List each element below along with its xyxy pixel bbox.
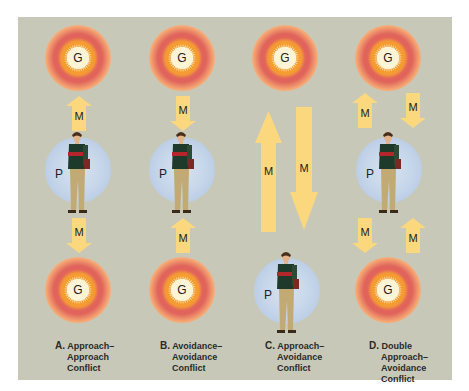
person-figure bbox=[65, 131, 91, 215]
motive-arrow-up-long: M bbox=[255, 111, 282, 232]
person-figure bbox=[376, 131, 402, 215]
motive-arrow-down: M bbox=[170, 96, 196, 131]
motive-arrow-up: M bbox=[66, 96, 92, 131]
person-figure bbox=[274, 251, 300, 335]
goal-label: G bbox=[149, 257, 215, 323]
motive-arrow-up: M bbox=[170, 218, 196, 253]
caption-c: C. Approach– Avoidance Conflict bbox=[265, 340, 324, 374]
motive-arrow-up: M bbox=[400, 218, 426, 253]
motive-arrow-up: M bbox=[352, 93, 378, 128]
goal-label: G bbox=[149, 25, 215, 91]
motive-arrow-down: M bbox=[400, 93, 426, 128]
goal-circle-d-top: G bbox=[355, 25, 421, 91]
goal-label: G bbox=[45, 25, 111, 91]
goal-circle-a-bottom: G bbox=[45, 257, 111, 323]
motive-arrow-down: M bbox=[66, 218, 92, 253]
goal-circle-a-top: G bbox=[45, 25, 111, 91]
caption-a: A. Approach– Approach Conflict bbox=[55, 340, 114, 374]
goal-circle-b-bottom: G bbox=[149, 257, 215, 323]
caption-b: B. Avoidance– Avoidance Conflict bbox=[160, 340, 222, 374]
motive-arrow-down: M bbox=[352, 218, 378, 253]
goal-circle-c-top: G bbox=[252, 25, 318, 91]
person-figure bbox=[169, 131, 195, 215]
caption-d: D. Double Approach– Avoidance Conflict bbox=[369, 340, 428, 385]
goal-circle-d-bottom: G bbox=[355, 257, 421, 323]
goal-label: G bbox=[45, 257, 111, 323]
goal-label: G bbox=[355, 257, 421, 323]
goal-label: G bbox=[252, 25, 318, 91]
goal-circle-b-top: G bbox=[149, 25, 215, 91]
goal-label: G bbox=[355, 25, 421, 91]
motive-arrow-down-long: M bbox=[290, 107, 318, 230]
